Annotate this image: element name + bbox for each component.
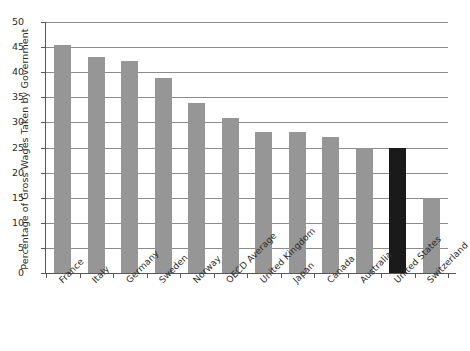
y-tick-mark: [41, 173, 46, 174]
y-tick-label: 0: [0, 267, 24, 278]
bar: [88, 57, 105, 273]
gridline: [46, 248, 448, 249]
y-tick-mark: [41, 148, 46, 149]
gridline: [46, 97, 448, 98]
gridline: [46, 173, 448, 174]
y-tick-mark: [41, 97, 46, 98]
bar: [121, 61, 138, 273]
y-tick-label: 40: [0, 66, 24, 77]
bar: [322, 137, 339, 273]
y-tick-label: 15: [0, 192, 24, 203]
y-tick-label: 35: [0, 91, 24, 102]
gridline: [46, 22, 448, 23]
y-tick-label: 45: [0, 41, 24, 52]
y-tick-label: 20: [0, 167, 24, 178]
y-tick-mark: [41, 223, 46, 224]
y-tick-mark: [41, 248, 46, 249]
y-tick-label: 50: [0, 16, 24, 27]
gridline: [46, 198, 448, 199]
plot-area: 05101520253035404550: [46, 22, 448, 273]
y-tick-label: 30: [0, 116, 24, 127]
x-axis-labels: FranceItalyGermanySwedenNorwayOECD Avera…: [46, 278, 466, 351]
y-tick-label: 10: [0, 217, 24, 228]
y-tick-label: 5: [0, 242, 24, 253]
bar: [155, 78, 172, 273]
bar: [54, 45, 71, 273]
y-tick-label: 25: [0, 142, 24, 153]
y-tick-mark: [41, 122, 46, 123]
gridline: [46, 148, 448, 149]
y-tick-mark: [41, 47, 46, 48]
y-tick-mark: [41, 22, 46, 23]
gridline: [46, 122, 448, 123]
bar: [356, 148, 373, 274]
y-tick-mark: [41, 198, 46, 199]
gridline: [46, 223, 448, 224]
gridline: [46, 72, 448, 73]
y-tick-mark: [41, 72, 46, 73]
gridline: [46, 47, 448, 48]
bar: [222, 118, 239, 273]
bar: [188, 103, 205, 273]
